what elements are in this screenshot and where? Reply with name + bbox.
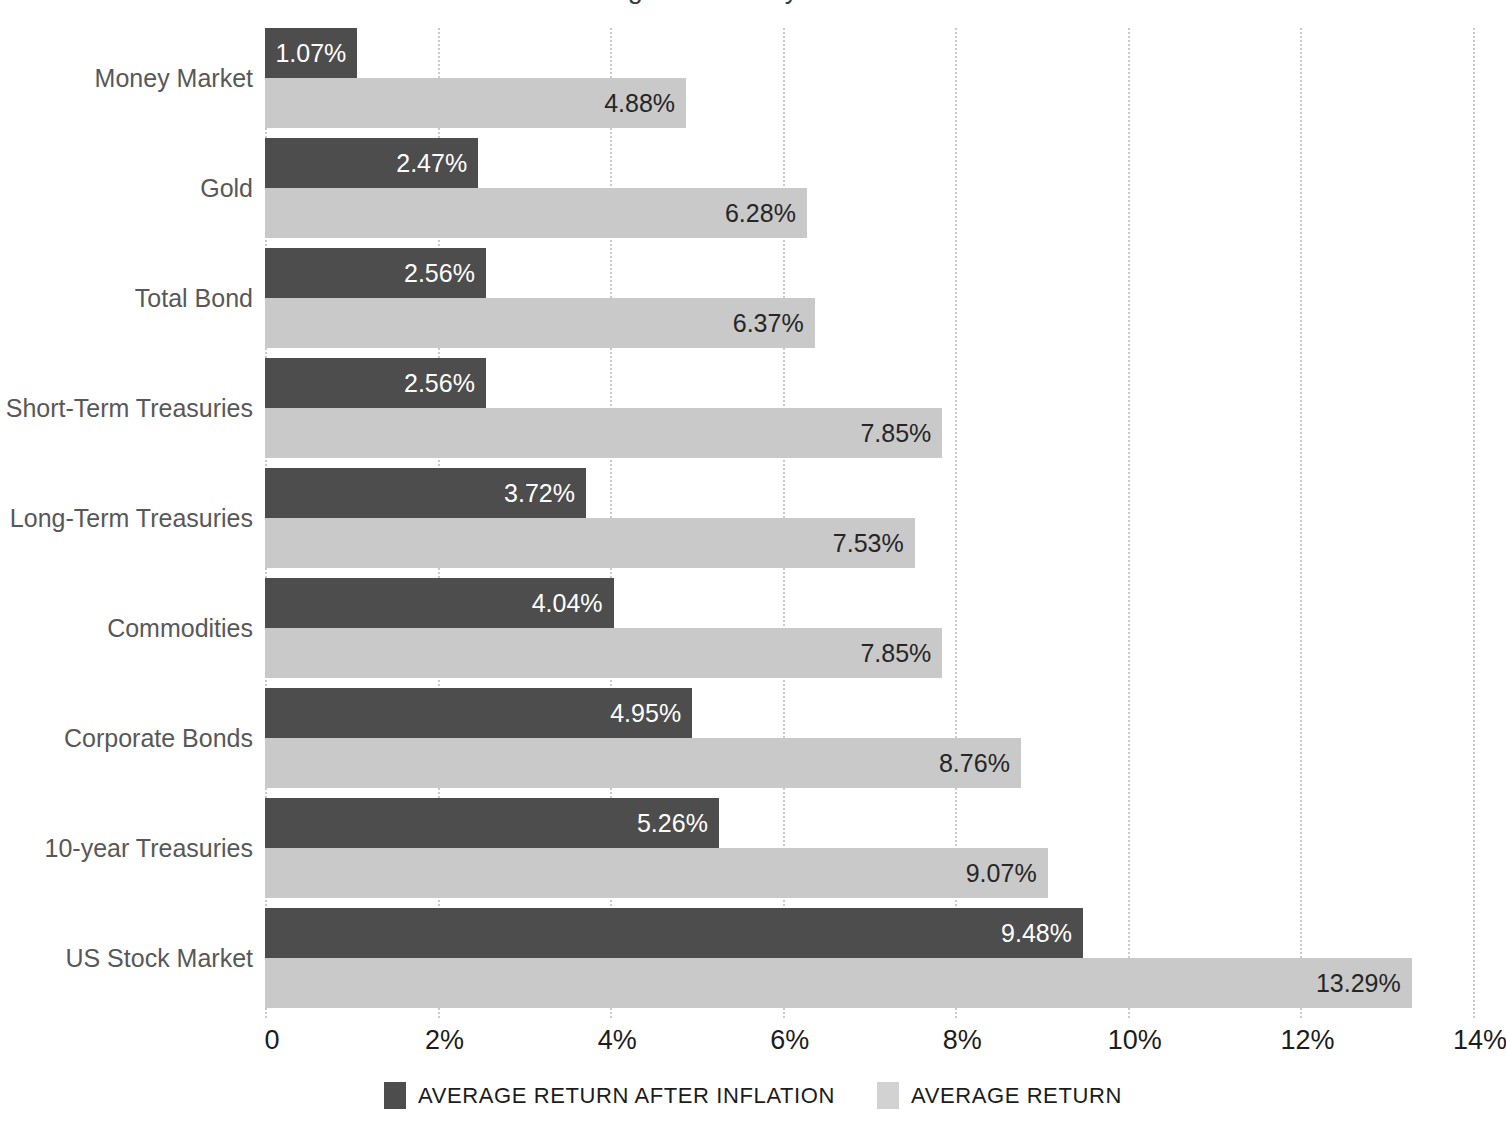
bar-value-label: 2.56% [404, 261, 475, 286]
bar-value-label: 4.88% [604, 91, 675, 116]
bar-average-return[interactable]: 9.07% [265, 848, 1048, 898]
legend-item[interactable]: AVERAGE RETURN AFTER INFLATION [384, 1082, 835, 1109]
bar-value-label: 5.26% [637, 811, 708, 836]
bar-value-label: 7.85% [860, 421, 931, 446]
bar-value-label: 13.29% [1316, 971, 1401, 996]
bar-row: 2.56%6.37% [265, 248, 1473, 348]
bar-row: 5.26%9.07% [265, 798, 1473, 898]
bar-row: 1.07%4.88% [265, 28, 1473, 128]
bar-after-inflation[interactable]: 4.04% [265, 578, 614, 628]
bar-after-inflation[interactable]: 3.72% [265, 468, 586, 518]
bar-average-return[interactable]: 6.37% [265, 298, 815, 348]
bar-value-label: 4.95% [610, 701, 681, 726]
legend-label: AVERAGE RETURN [911, 1083, 1122, 1109]
bar-value-label: 6.28% [725, 201, 796, 226]
bar-value-label: 4.04% [532, 591, 603, 616]
bar-average-return[interactable]: 7.53% [265, 518, 915, 568]
bar-after-inflation[interactable]: 2.56% [265, 358, 486, 408]
bar-row: 9.48%13.29% [265, 908, 1473, 1008]
category-label-total-bond: Total Bond [0, 248, 253, 348]
bar-row: 2.56%7.85% [265, 358, 1473, 458]
legend-item[interactable]: AVERAGE RETURN [877, 1082, 1122, 1109]
bar-after-inflation[interactable]: 1.07% [265, 28, 357, 78]
bar-value-label: 9.07% [966, 861, 1037, 886]
x-tick-label: 14% [1453, 1025, 1506, 1056]
bar-after-inflation[interactable]: 5.26% [265, 798, 719, 848]
legend-label: AVERAGE RETURN AFTER INFLATION [418, 1083, 835, 1109]
bar-average-return[interactable]: 4.88% [265, 78, 686, 128]
bar-value-label: 7.85% [860, 641, 931, 666]
category-label-corporate-bonds: Corporate Bonds [0, 688, 253, 788]
bar-average-return[interactable]: 7.85% [265, 628, 942, 678]
x-tick-label: 6% [770, 1025, 809, 1056]
chart-container: Average Returns by Asset Class 1.07%4.88… [0, 0, 1506, 1131]
bar-rows: 1.07%4.88%2.47%6.28%2.56%6.37%2.56%7.85%… [265, 28, 1473, 1018]
bar-row: 2.47%6.28% [265, 138, 1473, 238]
bar-value-label: 6.37% [733, 311, 804, 336]
plot-area: 1.07%4.88%2.47%6.28%2.56%6.37%2.56%7.85%… [265, 28, 1473, 1018]
bar-average-return[interactable]: 8.76% [265, 738, 1021, 788]
chart-title-clipped: Average Returns by Asset Class [0, 0, 1506, 8]
x-tick-label: 0 [264, 1025, 279, 1056]
category-label-10-year-treasuries: 10-year Treasuries [0, 798, 253, 898]
bar-average-return[interactable]: 6.28% [265, 188, 807, 238]
x-tick-label: 4% [598, 1025, 637, 1056]
category-label-commodities: Commodities [0, 578, 253, 678]
bar-average-return[interactable]: 13.29% [265, 958, 1412, 1008]
bar-after-inflation[interactable]: 2.47% [265, 138, 478, 188]
category-label-money-market: Money Market [0, 28, 253, 128]
category-label-us-stock-market: US Stock Market [0, 908, 253, 1008]
bar-value-label: 2.56% [404, 371, 475, 396]
gridline-14pct [1473, 28, 1476, 1018]
category-label-long-term-treasuries: Long-Term Treasuries [0, 468, 253, 568]
category-axis: Money MarketGoldTotal BondShort-Term Tre… [0, 28, 253, 1018]
x-tick-label: 8% [943, 1025, 982, 1056]
bar-row: 4.04%7.85% [265, 578, 1473, 678]
bar-row: 4.95%8.76% [265, 688, 1473, 788]
x-axis: 02%4%6%8%10%12%14% [265, 1025, 1473, 1065]
x-tick-label: 10% [1108, 1025, 1162, 1056]
bar-value-label: 2.47% [396, 151, 467, 176]
bar-average-return[interactable]: 7.85% [265, 408, 942, 458]
bar-value-label: 8.76% [939, 751, 1010, 776]
bar-value-label: 9.48% [1001, 921, 1072, 946]
bar-value-label: 3.72% [504, 481, 575, 506]
x-tick-label: 12% [1280, 1025, 1334, 1056]
category-label-gold: Gold [0, 138, 253, 238]
bar-row: 3.72%7.53% [265, 468, 1473, 568]
bar-after-inflation[interactable]: 9.48% [265, 908, 1083, 958]
bar-after-inflation[interactable]: 4.95% [265, 688, 692, 738]
chart-legend: AVERAGE RETURN AFTER INFLATIONAVERAGE RE… [0, 1082, 1506, 1109]
x-tick-label: 2% [425, 1025, 464, 1056]
bar-after-inflation[interactable]: 2.56% [265, 248, 486, 298]
bar-value-label: 1.07% [275, 41, 346, 66]
legend-swatch-icon [384, 1082, 406, 1109]
legend-swatch-icon [877, 1082, 899, 1109]
bar-value-label: 7.53% [833, 531, 904, 556]
category-label-short-term-treasuries: Short-Term Treasuries [0, 358, 253, 458]
